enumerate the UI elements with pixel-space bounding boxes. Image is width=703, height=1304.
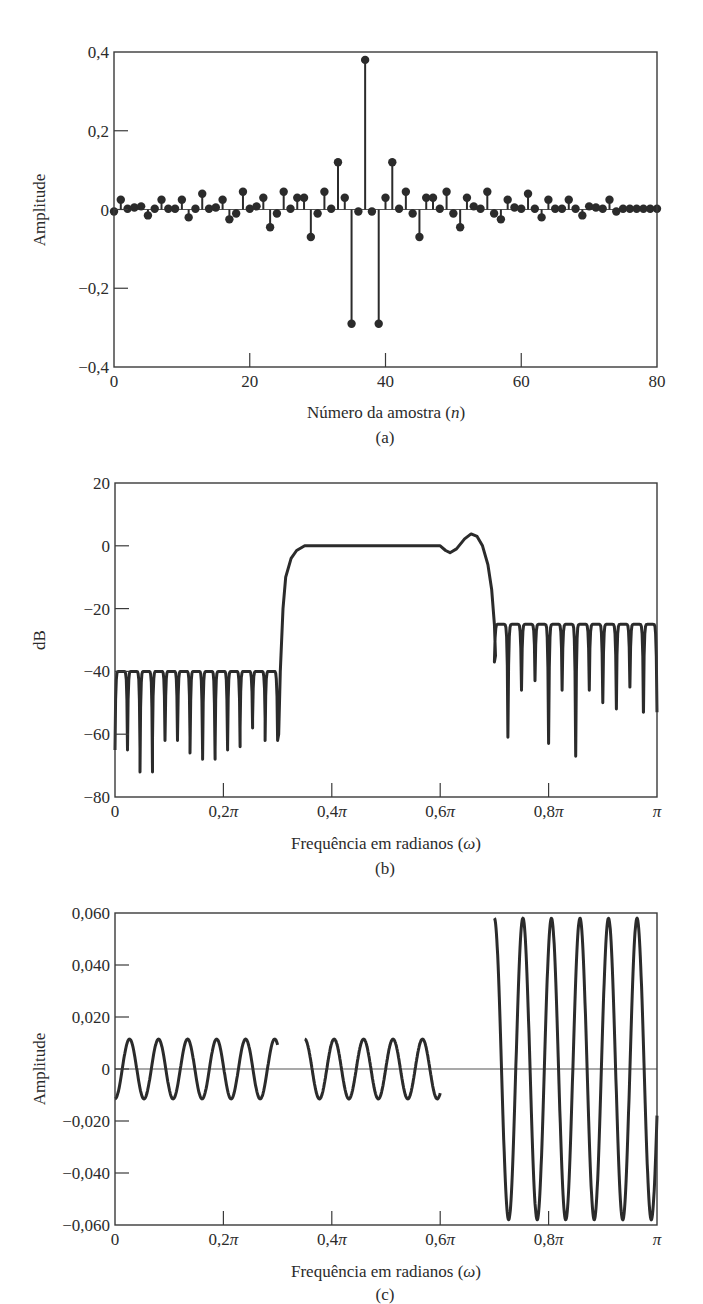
stem-marker: [117, 195, 125, 203]
stem-marker: [273, 209, 281, 217]
x-tick-label: 0,8π: [534, 802, 564, 821]
y-tick-label: 0,020: [72, 1008, 110, 1027]
x-tick-label: 60: [513, 372, 530, 391]
y-tick-label: 0,060: [72, 904, 110, 923]
x-tick-label: 0,6π: [425, 802, 455, 821]
stem-marker: [361, 56, 369, 64]
y-tick-label: −0,040: [62, 1164, 110, 1183]
x-tick-label: 0: [110, 372, 119, 391]
stem-marker: [524, 190, 532, 198]
stem-marker: [239, 188, 247, 196]
chart-a-ylabel: Amplitude: [30, 174, 49, 247]
x-tick-label: 0,4π: [317, 802, 347, 821]
y-tick-label: 0: [102, 537, 111, 556]
y-tick-label: −0,060: [62, 1216, 110, 1235]
stem-marker: [544, 195, 552, 203]
y-tick-label: 0: [102, 1060, 111, 1079]
x-tick-label: 80: [649, 372, 666, 391]
x-tick-label: 0,6π: [425, 1230, 455, 1249]
x-tick-label: 0,4π: [317, 1230, 347, 1249]
stem-marker: [347, 319, 355, 327]
stem-marker: [456, 223, 464, 231]
stem-marker: [463, 193, 471, 201]
stem-marker: [490, 209, 498, 217]
stem-marker: [266, 223, 274, 231]
stem-marker: [375, 319, 383, 327]
x-tick-label: 0,8π: [534, 1230, 564, 1249]
stem-marker: [225, 215, 233, 223]
stem-marker: [436, 205, 444, 213]
stem-marker: [259, 193, 267, 201]
stem-marker: [178, 195, 186, 203]
chart-b-panel-label: (b): [375, 859, 395, 878]
stem-marker: [313, 209, 321, 217]
stem-marker: [571, 205, 579, 213]
y-tick-label: 0,040: [72, 956, 110, 975]
stem-marker: [476, 205, 484, 213]
stem-marker: [341, 193, 349, 201]
stem-marker: [286, 205, 294, 213]
stem-marker: [198, 190, 206, 198]
stem-marker: [320, 188, 328, 196]
y-tick-label: 0,2: [88, 122, 109, 141]
y-tick-label: −60: [83, 725, 110, 744]
stem-marker: [184, 213, 192, 221]
stem-marker: [558, 205, 566, 213]
chart-b-curve: [115, 534, 657, 772]
stem-marker: [537, 213, 545, 221]
stem-marker: [442, 188, 450, 196]
x-tick-label: 0: [111, 802, 120, 821]
stem-marker: [449, 209, 457, 217]
stem-marker: [144, 211, 152, 219]
stem-marker: [191, 205, 199, 213]
stem-marker: [517, 205, 525, 213]
chart-a-axes: 0,40,20−0,2−0,4020406080: [78, 43, 665, 391]
stem-marker: [408, 209, 416, 217]
chart-c-xlabel: Frequência em radianos (ω): [291, 1262, 481, 1281]
chart-c-ylabel: Amplitude: [30, 1033, 49, 1106]
y-tick-label: −40: [83, 662, 110, 681]
x-tick-label: 0: [111, 1230, 120, 1249]
chart-c-curve: [115, 918, 657, 1220]
stem-marker: [151, 205, 159, 213]
stem-marker: [171, 205, 179, 213]
x-tick-label: 20: [241, 372, 258, 391]
y-tick-label: −0,4: [78, 358, 109, 377]
stem-marker: [212, 203, 220, 211]
y-tick-label: 0,4: [88, 43, 110, 62]
stem-marker: [483, 188, 491, 196]
stem-marker: [388, 158, 396, 166]
chart-b-ylabel: dB: [30, 630, 49, 650]
stem-marker: [402, 188, 410, 196]
stem-marker: [503, 195, 511, 203]
x-tick-label: π: [653, 1230, 662, 1249]
stem-marker: [279, 188, 287, 196]
stem-marker: [415, 233, 423, 241]
chart-b-magnitude-response: 200−20−40−60−8000,2π0,4π0,6π0,8ππ dB Fre…: [30, 474, 662, 878]
y-tick-label: −20: [83, 600, 110, 619]
chart-a-xlabel: Número da amostra (n): [307, 403, 465, 422]
stem-marker: [334, 158, 342, 166]
x-tick-label: 0,2π: [209, 802, 239, 821]
y-tick-label: 0: [101, 201, 110, 220]
x-tick-label: 0,2π: [209, 1230, 239, 1249]
chart-c-panel-label: (c): [376, 1285, 395, 1304]
stem-marker: [565, 195, 573, 203]
y-tick-label: 20: [93, 474, 110, 493]
stem-marker: [232, 209, 240, 217]
stem-marker: [531, 205, 539, 213]
stem-marker: [599, 205, 607, 213]
stem-marker: [368, 207, 376, 215]
stem-marker: [497, 215, 505, 223]
chart-a-panel-label: (a): [376, 428, 395, 447]
stem-marker: [300, 193, 308, 201]
chart-a-stems: [110, 56, 661, 328]
stem-marker: [354, 207, 362, 215]
chart-b-xlabel: Frequência em radianos (ω): [291, 834, 481, 853]
stem-marker: [327, 205, 335, 213]
stem-marker: [307, 233, 315, 241]
y-tick-label: −80: [83, 788, 110, 807]
stem-marker: [429, 193, 437, 201]
stem-marker: [395, 205, 403, 213]
y-tick-label: −0,020: [62, 1112, 110, 1131]
